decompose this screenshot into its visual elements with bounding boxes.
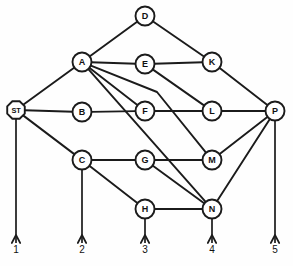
node-label-h: H	[142, 204, 149, 214]
node-p[interactable]: P	[266, 102, 285, 121]
edge-a-st	[23, 67, 75, 105]
terminal-label-4: 4	[209, 244, 215, 255]
edge-e-k	[154, 62, 203, 63]
node-e[interactable]: E	[136, 55, 155, 74]
edge-k-p	[219, 67, 268, 105]
node-d[interactable]: D	[136, 7, 155, 26]
node-label-st: ST	[12, 106, 22, 115]
edge-b-f	[91, 111, 136, 112]
node-label-l: L	[209, 106, 215, 116]
edge-a-e	[91, 62, 136, 63]
node-label-d: D	[142, 11, 149, 21]
node-label-k: K	[209, 57, 216, 67]
node-label-a: A	[79, 57, 86, 67]
edge-a-f	[89, 67, 138, 105]
terminal-label-2: 2	[79, 244, 85, 255]
node-f[interactable]: F	[136, 102, 155, 121]
node-layer: DAEKSTBFLPCGMHN	[7, 7, 284, 219]
node-b[interactable]: B	[73, 103, 92, 122]
node-label-e: E	[142, 59, 148, 69]
terminal-5: 5	[271, 120, 279, 255]
terminal-2: 2	[78, 169, 86, 255]
node-label-b: B	[79, 107, 86, 117]
node-label-n: N	[209, 204, 216, 214]
edge-st-b	[25, 110, 73, 111]
edge-st-c	[23, 115, 75, 154]
edge-e-l	[152, 69, 204, 106]
terminal-4: 4	[208, 218, 216, 255]
node-m[interactable]: M	[203, 151, 222, 170]
node-label-f: F	[142, 106, 148, 116]
edge-d-k	[152, 21, 204, 57]
edge-c-h	[89, 165, 138, 203]
node-label-c: C	[79, 155, 86, 165]
terminal-label-5: 5	[272, 244, 278, 255]
node-st[interactable]: ST	[7, 101, 25, 119]
node-label-g: G	[141, 155, 148, 165]
node-label-m: M	[208, 155, 216, 165]
terminal-3: 3	[141, 218, 149, 255]
edge-d-a	[89, 21, 138, 57]
node-label-p: P	[272, 106, 278, 116]
terminal-label-3: 3	[142, 244, 148, 255]
network-graph: 12345 DAEKSTBFLPCGMHN	[0, 0, 293, 266]
node-g[interactable]: G	[136, 151, 155, 170]
node-l[interactable]: L	[203, 102, 222, 121]
edge-m-p	[219, 116, 268, 154]
node-n[interactable]: N	[203, 200, 222, 219]
edge-n-p	[217, 118, 270, 201]
node-k[interactable]: K	[203, 53, 222, 72]
node-c[interactable]: C	[73, 151, 92, 170]
node-a[interactable]: A	[73, 53, 92, 72]
terminal-1: 1	[12, 119, 20, 255]
terminal-label-1: 1	[13, 244, 19, 255]
node-h[interactable]: H	[136, 200, 155, 219]
diagram-canvas: 12345 DAEKSTBFLPCGMHN	[0, 0, 293, 266]
